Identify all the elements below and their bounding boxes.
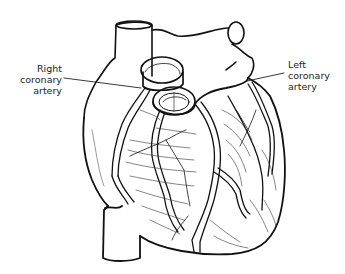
label-line: artery xyxy=(6,85,62,96)
label-line: Left xyxy=(288,59,344,70)
label-line: artery xyxy=(288,81,344,92)
right-coronary-artery-vessel xyxy=(112,88,184,232)
label-line: coronary xyxy=(288,70,344,81)
right-coronary-leader-line xyxy=(64,78,141,88)
aorta-opening xyxy=(141,57,183,90)
left-coronary-artery-vessel xyxy=(192,82,274,252)
right-coronary-artery-label: Right coronary artery xyxy=(6,63,62,96)
left-coronary-leader-line xyxy=(247,73,284,81)
coronary-branches xyxy=(130,110,256,240)
label-line: Right xyxy=(6,63,62,74)
heart-illustration xyxy=(0,0,345,274)
heart-diagram: Right coronary artery Left coronary arte… xyxy=(0,0,345,274)
left-coronary-artery-label: Left coronary artery xyxy=(288,59,344,92)
aortic-arch xyxy=(152,22,254,78)
label-line: coronary xyxy=(6,74,62,85)
